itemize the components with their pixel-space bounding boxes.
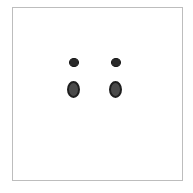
small-dot-right	[111, 58, 121, 67]
canvas-frame	[12, 7, 183, 181]
large-oval-right	[109, 81, 122, 98]
small-dot-left	[69, 58, 79, 67]
large-oval-left	[67, 81, 80, 98]
